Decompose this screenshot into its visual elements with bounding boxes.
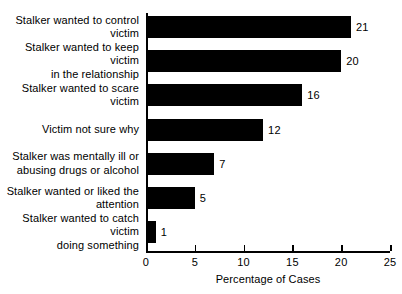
x-tick-mark xyxy=(390,245,392,251)
category-label-line: abusing drugs or alcohol xyxy=(12,164,139,178)
category-label: Stalker was mentally ill orabusing drugs… xyxy=(0,153,143,175)
bar-row: 21 xyxy=(146,16,390,38)
x-tick-label: 10 xyxy=(237,256,250,268)
category-label-line: Stalker wanted to control victim xyxy=(0,14,139,41)
category-label-line: Stalker wanted to catch victim xyxy=(0,212,139,239)
category-label-line: doing something xyxy=(0,239,139,253)
bar xyxy=(146,119,263,141)
category-label: Stalker wanted to scare victim xyxy=(0,84,143,106)
x-tick-mark xyxy=(146,245,148,251)
category-label: Victim not sure why xyxy=(0,119,143,141)
bar xyxy=(146,84,302,106)
category-label-text: Stalker wanted or liked theattention xyxy=(7,185,143,212)
x-tick-mark xyxy=(341,245,343,251)
bar-row: 16 xyxy=(146,84,390,106)
category-label-text: Stalker wanted to catch victimdoing some… xyxy=(0,212,143,253)
category-label-line: in the relationship xyxy=(0,68,139,82)
bar xyxy=(146,16,351,38)
bar-chart: Stalker wanted to control victimStalker … xyxy=(0,0,402,294)
x-tick-mark xyxy=(195,245,197,251)
category-label: Stalker wanted to catch victimdoing some… xyxy=(0,221,143,243)
bar-row: 7 xyxy=(146,153,390,175)
x-axis-title: Percentage of Cases xyxy=(146,273,390,285)
bar-value-label: 7 xyxy=(219,158,225,170)
category-label-line: Victim not sure why xyxy=(42,123,139,137)
category-label-text: Stalker was mentally ill orabusing drugs… xyxy=(12,150,143,177)
category-label: Stalker wanted or liked theattention xyxy=(0,187,143,209)
category-label: Stalker wanted to keep victimin the rela… xyxy=(0,50,143,72)
x-tick-label: 0 xyxy=(143,256,149,268)
x-tick-label: 25 xyxy=(384,256,397,268)
x-tick-label: 20 xyxy=(335,256,348,268)
bar xyxy=(146,187,195,209)
bar xyxy=(146,50,341,72)
y-axis-line xyxy=(146,13,148,252)
bar-value-label: 16 xyxy=(307,89,320,101)
bar-value-label: 21 xyxy=(356,21,369,33)
category-label-line: Stalker was mentally ill or xyxy=(12,150,139,164)
x-tick-mark xyxy=(292,245,294,251)
bar-row: 12 xyxy=(146,119,390,141)
category-label-text: Stalker wanted to scare victim xyxy=(0,82,143,109)
bar xyxy=(146,153,214,175)
bar-row: 5 xyxy=(146,187,390,209)
bar-row: 20 xyxy=(146,50,390,72)
bar-row: 1 xyxy=(146,221,390,243)
category-label-text: Victim not sure why xyxy=(42,123,143,137)
bar-value-label: 1 xyxy=(161,226,167,238)
x-axis-line xyxy=(146,251,390,253)
category-label-text: Stalker wanted to control victim xyxy=(0,14,143,41)
bar-value-label: 20 xyxy=(346,55,359,67)
category-label-line: attention xyxy=(7,198,139,212)
category-label-line: Stalker wanted or liked the xyxy=(7,185,139,199)
category-label-line: Stalker wanted to scare victim xyxy=(0,82,139,109)
x-tick-label: 15 xyxy=(286,256,299,268)
category-label-text: Stalker wanted to keep victimin the rela… xyxy=(0,41,143,82)
x-tick-label: 5 xyxy=(192,256,198,268)
bar-value-label: 12 xyxy=(268,124,281,136)
category-label: Stalker wanted to control victim xyxy=(0,16,143,38)
x-tick-mark xyxy=(244,245,246,251)
category-label-line: Stalker wanted to keep victim xyxy=(0,41,139,68)
bar-value-label: 5 xyxy=(200,192,206,204)
